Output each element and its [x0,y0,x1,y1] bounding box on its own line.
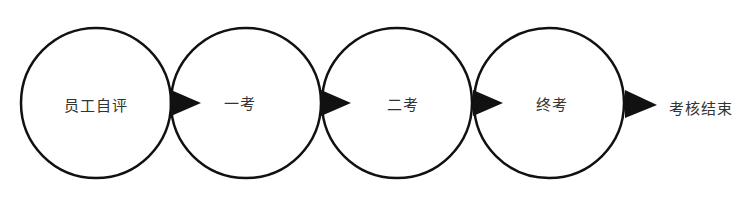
stage-label-3: 二考 [387,93,419,114]
end-label: 考核结束 [669,97,733,118]
arrow-icon-2 [321,90,351,116]
arrow-icon-3 [473,90,503,116]
arrow-icon-4 [625,90,657,118]
stage-label-2: 一考 [224,92,256,113]
stage-label-4: 终考 [536,93,568,114]
stage-label-1: 员工自评 [64,94,128,115]
arrow-icon-1 [171,90,201,116]
